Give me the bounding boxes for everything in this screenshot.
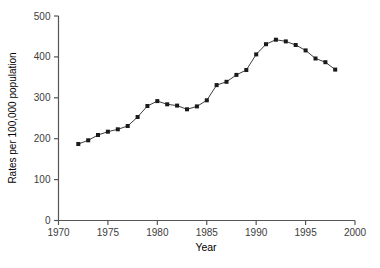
x-tick-label: 1975 <box>97 227 120 238</box>
data-point-marker <box>185 107 189 111</box>
data-point-marker <box>145 104 149 108</box>
y-tick-label: 300 <box>34 92 51 103</box>
x-tick-label: 1985 <box>196 227 219 238</box>
data-point-marker <box>106 130 110 134</box>
data-point-marker <box>175 104 179 108</box>
data-point-marker <box>86 138 90 142</box>
data-point-marker <box>116 127 120 131</box>
data-point-marker <box>274 38 278 42</box>
data-point-marker <box>304 48 308 52</box>
data-point-marker <box>126 124 130 128</box>
data-point-marker <box>244 68 248 72</box>
data-point-marker <box>205 98 209 102</box>
x-tick-label: 1990 <box>245 227 268 238</box>
data-point-marker <box>323 60 327 64</box>
x-tick-label: 1980 <box>146 227 169 238</box>
y-tick-label: 100 <box>34 174 51 185</box>
data-point-marker <box>264 42 268 46</box>
data-point-marker <box>225 80 229 84</box>
data-point-marker <box>314 57 318 61</box>
rates-line-chart-figure: 0100200300400500197019751980198519901995… <box>0 0 380 268</box>
data-point-marker <box>234 73 238 77</box>
data-point-marker <box>155 99 159 103</box>
y-tick-label: 200 <box>34 133 51 144</box>
data-point-marker <box>333 68 337 72</box>
data-point-marker <box>96 133 100 137</box>
data-point-marker <box>76 142 80 146</box>
data-point-marker <box>215 83 219 87</box>
line-chart: 0100200300400500197019751980198519901995… <box>0 0 380 268</box>
y-axis-title: Rates per 100,000 population <box>7 52 18 183</box>
data-point-marker <box>284 39 288 43</box>
y-tick-label: 500 <box>34 11 51 22</box>
plot-area: 0100200300400500197019751980198519901995… <box>34 11 367 238</box>
x-axis-title: Year <box>195 241 217 253</box>
data-point-marker <box>136 115 140 119</box>
data-point-marker <box>254 52 258 56</box>
data-point-marker <box>195 104 199 108</box>
x-tick-label: 1995 <box>294 227 317 238</box>
y-tick-label: 0 <box>45 215 51 226</box>
x-tick-label: 2000 <box>344 227 367 238</box>
x-tick-label: 1970 <box>47 227 70 238</box>
axis-lines <box>59 16 356 221</box>
data-point-marker <box>294 43 298 47</box>
data-point-marker <box>165 102 169 106</box>
y-tick-label: 400 <box>34 51 51 62</box>
